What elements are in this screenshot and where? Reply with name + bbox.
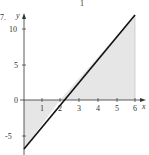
x-tick-label: 6 [133,104,137,113]
figure-label: 7. [0,13,6,22]
y-tick-label: 5 [14,61,18,70]
x-tick-label: 4 [96,104,100,113]
y-tick-label: 0 [14,96,18,105]
top-mark: 1 [80,0,84,8]
y-tick-label: 10 [9,25,17,34]
y-axis-label: y [15,11,20,20]
x-tick-label: 1 [40,104,44,113]
x-axis-label: x [141,102,146,111]
chart-svg: 1 2 3 4 5 6 10 5 0 -5 x y 7. 1 [0,0,149,155]
y-axis-arrow-icon [22,13,26,19]
x-tick-label: 3 [77,104,81,113]
y-tick-label: -5 [5,132,12,141]
x-tick-label: 5 [115,104,119,113]
